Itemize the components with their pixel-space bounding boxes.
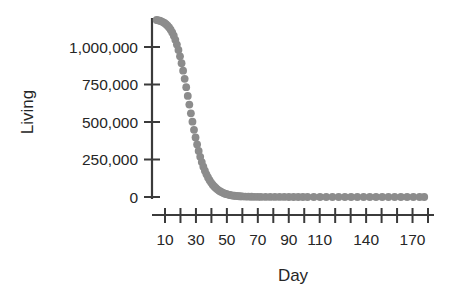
- data-point: [420, 193, 428, 201]
- x-axis-title: Day: [278, 266, 309, 285]
- x-tick-label: 70: [249, 231, 267, 248]
- figure-container: 0250,000500,000750,0001,000,000 10305070…: [0, 0, 451, 300]
- data-point: [179, 67, 187, 75]
- data-point: [187, 109, 195, 117]
- y-tick-label: 250,000: [82, 151, 138, 168]
- data-point: [192, 134, 200, 142]
- living-vs-day-scatter-chart: 0250,000500,000750,0001,000,000 10305070…: [0, 0, 451, 300]
- data-point: [178, 59, 186, 67]
- data-point: [193, 141, 201, 149]
- data-point: [189, 118, 197, 126]
- y-tick-label: 750,000: [82, 76, 138, 93]
- x-tick-label: 110: [307, 231, 332, 248]
- data-point: [181, 75, 189, 83]
- data-point: [185, 101, 193, 109]
- data-point: [184, 92, 192, 100]
- data-point: [176, 52, 184, 60]
- x-tick-label: 10: [156, 231, 174, 248]
- y-axis-title: Living: [18, 90, 37, 134]
- x-tick-label: 170: [400, 231, 426, 248]
- x-tick-label: 30: [187, 231, 205, 248]
- x-tick-label: 90: [280, 231, 298, 248]
- data-point: [190, 126, 198, 134]
- x-tick-label: 140: [353, 231, 379, 248]
- chart-background: [0, 0, 451, 300]
- data-point: [182, 83, 190, 91]
- y-tick-label: 0: [129, 189, 138, 206]
- x-tick-label: 50: [218, 231, 236, 248]
- y-tick-label: 500,000: [82, 114, 138, 131]
- y-tick-label: 1,000,000: [69, 39, 138, 56]
